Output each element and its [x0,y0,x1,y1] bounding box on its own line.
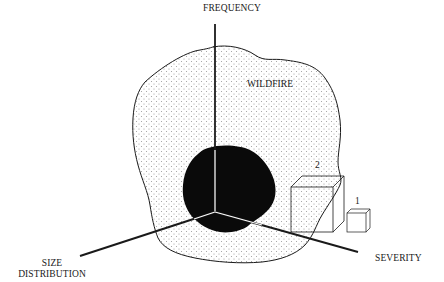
wildfire-risk-diagram [0,0,444,282]
severity-axis-label: SEVERITY [375,253,422,264]
box-1 [347,209,370,232]
frequency-axis-label: FREQUENCY [203,3,261,14]
size-distribution-axis-label: SIZE DISTRIBUTION [12,258,92,280]
size-label-line2: DISTRIBUTION [12,269,92,280]
box-1-label: 1 [355,196,360,207]
wildfire-label: WILDFIRE [247,79,293,90]
size-label-line1: SIZE [12,258,92,269]
box-2-label: 2 [315,160,320,171]
